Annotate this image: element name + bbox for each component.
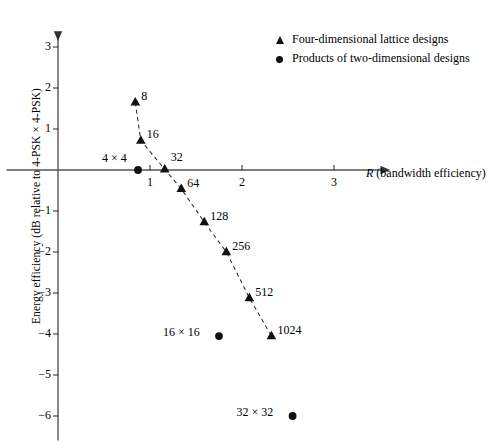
data-point-label: 64 (187, 176, 199, 191)
x-tick-label: 3 (324, 175, 344, 190)
x-tick-label: 2 (232, 175, 252, 190)
data-series (130, 97, 296, 420)
y-tick-label: 1 (34, 121, 51, 136)
data-point-label: 16 (147, 127, 159, 142)
circle-marker-icon (276, 51, 292, 66)
x-axis-symbol: R (366, 166, 373, 180)
data-point-label: 8 (141, 89, 147, 104)
data-point-label: 32 (171, 150, 183, 165)
legend-item-circle: Products of two-dimensional designs (276, 49, 470, 68)
legend-item-triangle: Four-dimensional lattice designs (276, 30, 470, 49)
y-tick-label: −4 (34, 326, 51, 341)
axes (6, 33, 381, 441)
y-tick-label: −3 (34, 285, 51, 300)
data-point-label: 32 × 32 (237, 405, 274, 420)
data-point-label: 256 (232, 239, 250, 254)
x-axis-label-text: (bandwidth efficiency) (376, 166, 485, 180)
chart-canvas: Energy efficiency (dB relative to 4-PSK … (0, 0, 495, 448)
data-point-label: 128 (210, 209, 228, 224)
legend-label-products: Products of two-dimensional designs (292, 51, 470, 66)
data-point-label: 16 × 16 (163, 325, 200, 340)
y-tick-label: −1 (34, 203, 51, 218)
data-point-label: 1024 (277, 323, 301, 338)
data-point-label: 512 (255, 285, 273, 300)
x-axis-label: R (bandwidth efficiency) (366, 166, 486, 181)
legend: Four-dimensional lattice designs Product… (276, 30, 470, 68)
data-point-label: 4 × 4 (102, 151, 127, 166)
y-tick-label: −2 (34, 244, 51, 259)
x-tick-label: 1 (140, 175, 160, 190)
y-tick-label: −5 (34, 367, 51, 382)
y-tick-label: 3 (34, 39, 51, 54)
y-tick-label: −6 (34, 408, 51, 423)
legend-label-lattice: Four-dimensional lattice designs (292, 32, 448, 47)
triangle-marker-icon (276, 32, 292, 47)
y-tick-label: 2 (34, 80, 51, 95)
